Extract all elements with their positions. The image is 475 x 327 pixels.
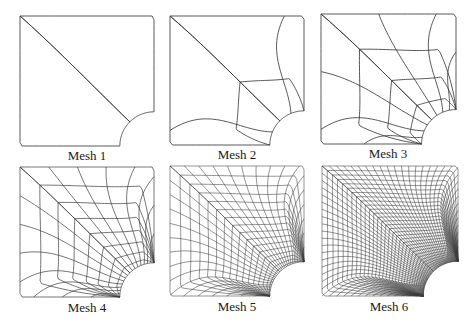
hole-arc: [130, 112, 154, 122]
mesh-radial-line: [20, 16, 130, 122]
mesh-diagram: [20, 16, 154, 146]
mesh-diagram: [170, 16, 304, 145]
hole-arc: [432, 110, 456, 120]
mesh-circumferential-line: [417, 99, 456, 110]
mesh-radial-line: [170, 16, 280, 121]
mesh-label-2: Mesh 2: [157, 147, 317, 163]
mesh-radial-line: [379, 14, 437, 115]
mesh-radial-line: [106, 167, 138, 267]
mesh-label-4: Mesh 4: [7, 300, 167, 316]
outer-boundary: [170, 16, 304, 111]
hole-arc: [270, 121, 280, 145]
mesh-label-1: Mesh 1: [7, 148, 167, 164]
mesh-circumferential-line: [230, 225, 270, 296]
mesh-radial-line: [277, 16, 291, 113]
mesh-radial-line: [184, 166, 281, 271]
outer-boundary: [20, 16, 120, 146]
hole-arc: [120, 273, 130, 297]
mesh-radial-line: [256, 166, 288, 266]
mesh-radial-line: [321, 72, 427, 125]
mesh-radial-line: [321, 118, 424, 131]
hole-arc: [280, 111, 304, 121]
outer-boundary: [321, 14, 456, 110]
mesh-diagram: [321, 14, 456, 144]
mesh-panel-6: [322, 166, 458, 296]
mesh-label-3: Mesh 3: [308, 146, 468, 162]
mesh-panel-5: [170, 166, 304, 296]
mesh-radial-line: [199, 166, 283, 270]
mesh-diagram: [170, 166, 304, 296]
mesh-panel-2: [170, 16, 304, 145]
mesh-circumferential-line: [40, 185, 120, 297]
mesh-radial-line: [170, 238, 275, 279]
hole-arc: [422, 120, 432, 144]
mesh-label-6: Mesh 6: [309, 299, 469, 315]
outer-boundary: [20, 16, 154, 112]
mesh-radial-line: [227, 166, 285, 268]
mesh-circumferential-line: [240, 79, 304, 111]
mesh-label-5: Mesh 5: [157, 299, 317, 315]
mesh-radial-line: [428, 14, 442, 112]
mesh-diagram: [322, 166, 458, 296]
mesh-radial-line: [20, 252, 124, 281]
mesh-circumferential-line: [410, 105, 421, 144]
mesh-radial-line: [77, 167, 135, 269]
mesh-circumferential-line: [225, 216, 304, 262]
mesh-panel-4: [20, 167, 154, 297]
mesh-panel-3: [321, 14, 456, 144]
mesh-circumferential-line: [236, 82, 270, 145]
hole-arc: [120, 122, 130, 146]
mesh-radial-line: [344, 166, 436, 270]
hole-arc: [270, 272, 280, 296]
hole-arc: [130, 263, 154, 273]
mesh-panel-1: [20, 16, 154, 146]
mesh-radial-line: [170, 119, 272, 132]
mesh-diagram: [20, 167, 154, 297]
mesh-radial-line: [321, 14, 432, 120]
hole-arc: [280, 262, 304, 272]
